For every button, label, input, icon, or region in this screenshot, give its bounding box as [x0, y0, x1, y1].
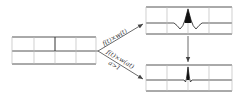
wavelet-scaling-diagram: f(t)×w(t) f(t)×w(at) a>1: [0, 0, 241, 100]
scaled-wavelet-output-panel: [146, 65, 232, 91]
upper-arrow-label: f(t)×w(t): [100, 26, 129, 48]
wavelet-output-panel: [146, 7, 232, 34]
input-signal-panel: [12, 37, 98, 64]
